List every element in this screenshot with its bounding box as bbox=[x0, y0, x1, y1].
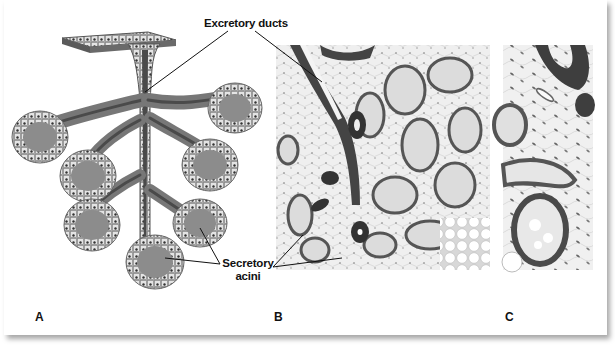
acinus bbox=[64, 199, 120, 251]
secretory-acini-label-line2: acini bbox=[222, 270, 274, 283]
panel-label-a: A bbox=[35, 310, 44, 324]
acinus bbox=[208, 83, 262, 133]
acinus bbox=[182, 139, 238, 191]
surface-epithelium bbox=[62, 32, 176, 53]
adipose-tissue bbox=[440, 218, 490, 270]
panel-c-histology bbox=[494, 45, 595, 272]
panel-label-c: C bbox=[505, 310, 514, 324]
acinus-section-c bbox=[514, 196, 566, 264]
panel-label-b: B bbox=[274, 310, 283, 324]
excretory-ducts-label: Excretory ducts bbox=[204, 17, 288, 30]
acinus bbox=[60, 150, 116, 202]
acinus bbox=[173, 199, 227, 247]
secretory-acini-label: Secretory acini bbox=[222, 257, 274, 283]
acinus bbox=[12, 111, 68, 163]
secretory-acini-label-line1: Secretory bbox=[222, 257, 274, 270]
acinus bbox=[126, 235, 184, 289]
panel-a-illustration bbox=[12, 32, 262, 289]
panel-b-histology bbox=[276, 45, 490, 270]
figure-artwork bbox=[0, 0, 615, 346]
